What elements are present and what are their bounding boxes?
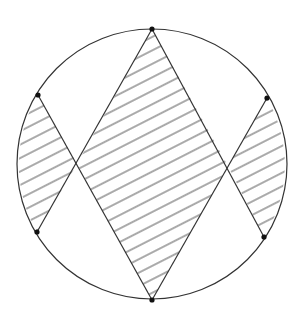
shaded-regions [19,29,285,300]
point-left-lower [34,229,39,234]
point-bottom [149,297,154,302]
shaded-rhombus [77,29,228,300]
geometry-diagram [0,0,301,326]
shaded-left-segment [19,95,77,232]
point-right-upper [264,95,269,100]
point-top [149,26,154,31]
point-left-upper [35,92,40,97]
point-right-lower [261,234,266,239]
